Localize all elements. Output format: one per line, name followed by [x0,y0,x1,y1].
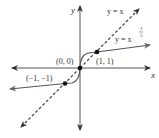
line-label: y = x [107,7,124,16]
graph: y x y = x y = x 1 5 (0, 0) (1, 1) (−1, −… [0,0,159,138]
x-axis-label: x [150,70,155,80]
curve-exp-den: 5 [140,33,143,38]
point-1-1-label: (1, 1) [96,57,114,66]
origin-label: (0, 0) [56,57,74,66]
point-neg1-label: (−1, −1) [26,74,53,83]
point-origin [78,66,83,71]
curve-exp-num: 1 [140,26,143,31]
point-neg1-neg1 [63,81,68,86]
y-axis-label: y [70,5,75,15]
point-1-1 [95,50,100,55]
curve-label: y = x [115,35,132,44]
